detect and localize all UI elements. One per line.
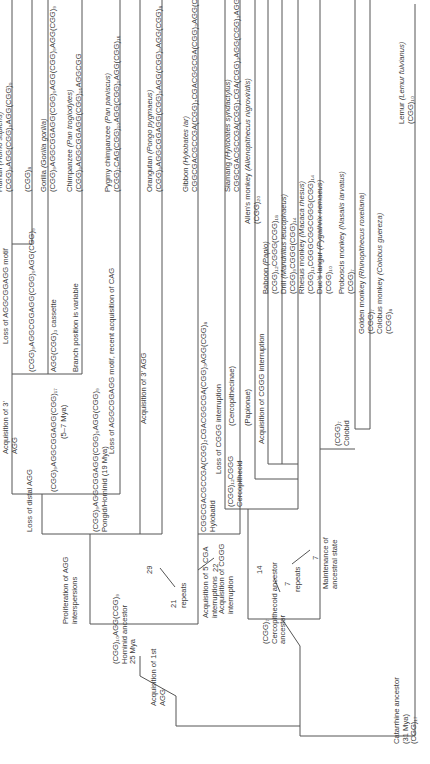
- taxon-proboscis-monkey: Proboscis monkey (Nasalis larvatus) (CGG…: [338, 171, 355, 294]
- taxon-common: Colobus monkey: [375, 277, 384, 334]
- colobid-label: (CGG)₇ Colobid: [334, 420, 351, 446]
- taxon-pygmy-chimpanzee: Pygmy chimpanzee (Pan paniscus) (CGG)₇CA…: [104, 35, 121, 192]
- taxon-repeat: (CGG)₇CAG(CGG)₁₀AGG(CGG)₉AGG(CGG)₁₆: [113, 35, 122, 192]
- taxon-repeat: (CGG)₇: [367, 193, 376, 334]
- taxon-latin: (Mandrillus leucophaeus): [279, 194, 288, 279]
- taxon-latin: (Pan troglodytes): [65, 89, 74, 147]
- event-proliferation-agg: Proliferation of AGG interspersions: [62, 534, 79, 624]
- taxon-latin: (Hylobates lar): [181, 116, 190, 165]
- taxon-latin: (Allenopithecus nigroviridis): [243, 78, 252, 171]
- taxon-gibbon: Gibbon (Hylobates lar) CGGCGACGCCGA(CGG)…: [182, 0, 199, 192]
- hominid-ancestor-label: (CGG)₁₀AGG(CGG)₉ Hominid ancestor 25 Mya: [112, 594, 138, 664]
- event-acquisition-3agg-lower: Acquisition of 3' AGG: [140, 352, 149, 424]
- event-agg-cassette: AGG(CGG)₃ cassette: [50, 299, 59, 372]
- taxon-golden-monkey: Golden monkey (Rhinopithecus roxellana) …: [358, 193, 375, 334]
- phylogenetic-tree-diagram: Catarrhine ancestor (31 Mya) (CGG)₁₇ Acq…: [0, 0, 430, 764]
- taxon-latin: (Macaca rhesus): [297, 181, 306, 238]
- event-loss-distal-agg: Loss of distal AGG: [26, 469, 35, 532]
- colobid-name: Colobid: [343, 420, 352, 446]
- taxon-common: Proboscis monkey: [337, 232, 346, 294]
- cercopithecoid-repeats-label: repeats: [294, 567, 303, 592]
- taxon-repeat: (CGG)₁₀: [325, 180, 334, 294]
- taxon-common: Golden monkey: [357, 281, 366, 334]
- hominine-repeat: (CGG)₉AGGCGGAGG(CGG)₁₇: [50, 388, 59, 492]
- taxon-latin: (Hylobates syndactylus): [223, 79, 232, 160]
- taxon-common: Orangutan: [145, 156, 154, 192]
- taxon-chimpanzee: Chimpanzee (Pan troglodytes) (CGG)₉AGGCG…: [66, 53, 83, 192]
- taxon-repeat: CGGCGACGCCGA(CGG)₂CGA(CGG)₃AGG(CGG)₃AGG(…: [233, 0, 242, 192]
- taxon-common: Gibbon: [181, 168, 190, 193]
- taxon-repeat: (CGG)₉AGGCGGAGG(CGG)₁₆AGGCGG: [75, 53, 84, 192]
- taxon-common: Gorilla: [39, 170, 48, 192]
- cercopithecid-label: (CGG)₁₂CGGG Cercopithecid: [227, 456, 244, 507]
- taxon-lemur: Lemur (Lemur fulvianus) (CGG)₁₀: [398, 42, 415, 124]
- taxon-common: Allen's monkey: [243, 173, 252, 224]
- taxon-latin: (Gorilla gorilla): [39, 119, 48, 168]
- taxon-repeat: (CGG)₁₀: [407, 42, 416, 124]
- taxon-repeat: (CGG)₉AGGCGGAGG(CGG)₉AGG(CGG)₉AGG(CGG)₉: [49, 6, 58, 192]
- hominid-repeat-count: 21: [170, 600, 179, 608]
- taxon-latin: (Rhinopithecus roxellana): [357, 193, 366, 279]
- event-loss-cggg: Loss of CGGG interruption: [215, 384, 224, 474]
- clade-cercopithecinae: (Cercopithecinae): [228, 366, 237, 426]
- cercopithecoid-repeat-count: 7: [284, 582, 293, 586]
- taxon-repeat: (CGG)₉CGGG(CGG)₁₄: [289, 194, 298, 294]
- event-acquisition-3agg-upper: Acquisition of 3' AGG: [2, 394, 19, 454]
- hominid-date: 25 Mya: [129, 594, 138, 664]
- taxon-common: Chimpanzee: [65, 149, 74, 192]
- taxon-common: Drill: [279, 281, 288, 294]
- taxon-human-allele-2: (CGG)₈: [24, 166, 33, 192]
- taxon-colobus-monkey: Colobus monkey (Colobus guereza) (CGG)₈: [376, 213, 393, 334]
- clade-papionae: (Papionae): [244, 389, 253, 426]
- taxon-human: Human (Homo sapiens) (CGG)₉AGG(CGG)₉AGG(…: [0, 82, 13, 192]
- taxon-orangutan: Orangutan (Pongo pygmaeus) (CGG)₉AGGCGGA…: [146, 6, 163, 192]
- taxon-common: Pygmy chimpanzee: [103, 126, 112, 192]
- taxon-repeat: CGGCGACGCCGA(CGG)₂CGACGGCGA(CGG)₃AGG(CGG…: [191, 0, 200, 192]
- event-acquisition-cggg: Acquisition of CGGG interruption: [218, 524, 235, 614]
- taxon-ducs-langur: Duc's langur (Pygathrix nemaeus) (CGG)₁₀: [316, 180, 333, 294]
- taxon-repeat: (CGG)₉AGGCGGAGG(CGG)₉AGG(CGG)₉AGG(CGG)₈: [155, 6, 164, 192]
- taxon-repeat: (CGG)₇: [347, 171, 356, 294]
- event-loss-agg-motif: Loss of AGGCGGAGG motif: [2, 248, 11, 344]
- event-acquisition-cggg-2: Acquisition of CGGG interruption: [258, 333, 267, 444]
- taxon-repeat: (CGG)₁₁CGGGCGGCGGG(CGG)₁₄: [307, 175, 316, 294]
- catarrhine-ancestor-label: Catarrhine ancestor (31 Mya) (CGG)₁₇: [393, 677, 419, 744]
- hominine-date: (5–7 Mya): [60, 405, 69, 439]
- taxon-latin: (Pygathrix nemaeus): [315, 180, 324, 250]
- event-acquisition-1st-agg: Acquisition of 1st AGG: [150, 648, 167, 706]
- taxon-repeat: (CGG)₉AGG(CGG)₉AGG(CGG)₉: [5, 82, 14, 192]
- event-maintenance: Maintenance of ancestral state: [322, 509, 339, 589]
- taxon-latin: (Lemur fulvianus): [397, 42, 406, 101]
- human-line-repeat: (CGG)₉AGGCGGAGG(CGG)₉AGG(CGG)₉: [28, 228, 37, 372]
- taxon-repeat: (CGG)₈: [385, 213, 394, 334]
- taxon-baboon: Baboon (Papio) (CGG)₁₂CGGG(CGG)₁₈: [262, 215, 279, 294]
- taxon-allens-monkey: Allen's monkey (Allenopithecus nigroviri…: [244, 78, 261, 224]
- taxon-common: Rhesus monkey: [297, 240, 306, 294]
- event-loss-agg-recent-cag: Loss of AGGCGGAGG motif, recent acquisit…: [108, 268, 117, 454]
- taxon-latin: (Colobus guereza): [375, 213, 384, 275]
- event-branch-variable: Branch position is variable: [72, 283, 81, 372]
- hominid-repeats-label: repeats: [180, 583, 189, 608]
- cercopithecid-name: Cercopithecid: [236, 456, 245, 507]
- taxon-common: Siamang: [223, 162, 232, 192]
- taxon-gorilla: Gorilla (Gorilla gorilla) (CGG)₉AGGCGGAG…: [40, 6, 57, 192]
- taxon-common: Baboon: [261, 268, 270, 294]
- taxon-common: Duc's langur: [315, 252, 324, 294]
- taxon-siamang: Siamang (Hylobates syndactylus) CGGCGACG…: [224, 0, 241, 192]
- taxon-drill: Drill (Mandrillus leucophaeus) (CGG)₉CGG…: [280, 194, 297, 294]
- taxon-latin: (Pongo pygmaeus): [145, 90, 154, 154]
- taxon-repeat: (CGG)₂₀: [253, 78, 262, 224]
- taxon-rhesus-monkey: Rhesus monkey (Macaca rhesus) (CGG)₁₁CGG…: [298, 175, 315, 294]
- taxon-latin: (Pan paniscus): [103, 73, 112, 124]
- cercopithecoid-label: (CGG)₇ Cercopithecoid ancestor ancestor: [262, 562, 288, 644]
- taxon-latin: (Nasalis larvatus): [337, 171, 346, 230]
- colobid-repeat-count: 7: [312, 556, 321, 560]
- taxon-common: Lemur: [397, 102, 406, 124]
- taxon-repeat: (CGG)₁₂CGGG(CGG)₁₈: [271, 215, 280, 294]
- cercopithecid-repeat-count: 14: [256, 566, 265, 574]
- pongid-repeat-count: 29: [146, 566, 155, 574]
- taxon-latin: (Papio): [261, 241, 270, 265]
- root-repeat: (CGG)₁₇: [410, 677, 419, 744]
